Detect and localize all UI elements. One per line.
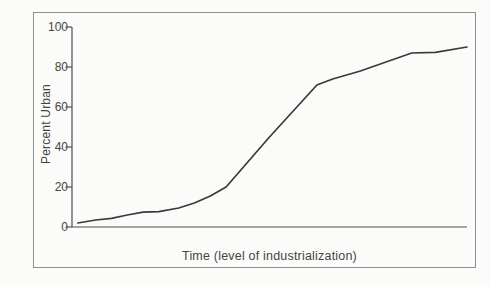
chart-page: 020406080100 Percent Urban Time (level o…: [0, 0, 491, 287]
x-axis-title: Time (level of industrialization): [72, 249, 467, 263]
y-tick-label: 100: [38, 21, 68, 33]
series-line: [78, 47, 467, 223]
plot-area: [0, 0, 491, 287]
urbanization-curve: [78, 47, 467, 223]
y-axis-title: Percent Urban: [39, 54, 53, 194]
y-tick-label: 0: [38, 221, 68, 233]
axes: [66, 27, 468, 227]
